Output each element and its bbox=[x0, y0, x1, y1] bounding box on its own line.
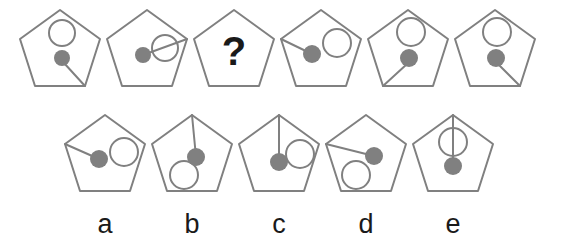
connector-line bbox=[326, 144, 374, 156]
option-c[interactable]: c bbox=[239, 115, 319, 239]
options-row: a b c bbox=[65, 115, 493, 239]
option-label-b: b bbox=[184, 209, 199, 239]
filled-dot-icon bbox=[400, 49, 418, 67]
hollow-circle-icon bbox=[286, 140, 314, 168]
sequence-item-1 bbox=[20, 10, 100, 86]
sequence-row: ? bbox=[20, 10, 535, 86]
puzzle-canvas: ? bbox=[0, 0, 562, 252]
option-label-a: a bbox=[97, 209, 113, 239]
pentagon-outline bbox=[107, 10, 187, 86]
hollow-circle-icon bbox=[342, 161, 370, 189]
filled-dot-icon bbox=[54, 50, 70, 66]
sequence-item-5 bbox=[368, 10, 448, 86]
hollow-circle-icon bbox=[49, 20, 75, 46]
connector-line bbox=[383, 64, 407, 86]
option-label-c: c bbox=[272, 209, 286, 239]
hollow-circle-icon bbox=[397, 18, 425, 46]
connector-line bbox=[498, 64, 520, 86]
sequence-item-4 bbox=[281, 10, 361, 86]
filled-dot-icon bbox=[487, 49, 505, 67]
sequence-item-2 bbox=[107, 10, 187, 86]
hollow-circle-icon bbox=[483, 18, 511, 46]
sequence-item-3-missing: ? bbox=[194, 10, 274, 86]
pentagon-outline bbox=[20, 10, 100, 86]
hollow-circle-icon bbox=[323, 29, 351, 57]
option-e[interactable]: e bbox=[413, 115, 493, 239]
connector-line bbox=[143, 39, 187, 55]
pentagon-outline bbox=[455, 10, 535, 86]
option-b[interactable]: b bbox=[152, 115, 232, 239]
connector-line bbox=[64, 63, 85, 86]
hollow-circle-icon bbox=[110, 138, 138, 166]
option-d[interactable]: d bbox=[326, 115, 406, 239]
pentagon-outline bbox=[368, 10, 448, 86]
question-mark-text: ? bbox=[222, 29, 246, 73]
sequence-item-6 bbox=[455, 10, 535, 86]
option-a[interactable]: a bbox=[65, 115, 145, 239]
option-label-d: d bbox=[358, 209, 373, 239]
puzzle-container: ? bbox=[0, 0, 562, 252]
option-label-e: e bbox=[445, 209, 460, 239]
